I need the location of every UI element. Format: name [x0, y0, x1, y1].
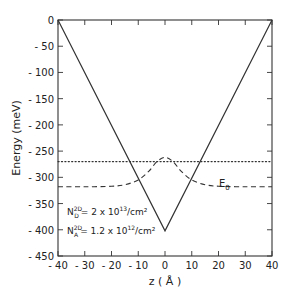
- y-axis-label: Energy (meV): [10, 100, 23, 176]
- donor-density-annotation: N2DD= 2 x 1013/cm²: [67, 205, 148, 219]
- y-tick-label: - 200: [28, 120, 54, 131]
- y-tick-label: 0: [48, 15, 54, 26]
- x-axis-label: z ( Å ): [149, 275, 181, 288]
- acceptor-density-annotation: N2DA= 1.2 x 1012/cm²: [67, 224, 156, 238]
- data-series: [58, 20, 272, 231]
- plot-border: [58, 20, 272, 256]
- y-tick-label: - 450: [28, 251, 54, 262]
- x-tick-label: 10: [185, 260, 198, 271]
- y-tick-label: - 100: [28, 67, 54, 78]
- x-tick-label: - 30: [75, 260, 95, 271]
- x-tick-label: 30: [239, 260, 252, 271]
- series-solid-line: [58, 20, 272, 231]
- y-tick-label: - 250: [28, 146, 54, 157]
- e0-label: E0: [219, 178, 230, 192]
- energy-band-chart: - 40- 30- 20- 100102030400- 50- 100- 150…: [0, 0, 291, 302]
- y-tick-label: - 350: [28, 199, 54, 210]
- y-tick-label: - 150: [28, 94, 54, 105]
- y-tick-label: - 300: [28, 172, 54, 183]
- x-tick-label: - 20: [102, 260, 122, 271]
- y-tick-label: - 50: [34, 41, 54, 52]
- plot-frame: [58, 20, 272, 256]
- x-tick-label: 20: [212, 260, 225, 271]
- x-tick-label: - 10: [128, 260, 148, 271]
- y-tick-label: - 400: [28, 225, 54, 236]
- x-tick-label: 40: [266, 260, 279, 271]
- x-tick-label: 0: [162, 260, 168, 271]
